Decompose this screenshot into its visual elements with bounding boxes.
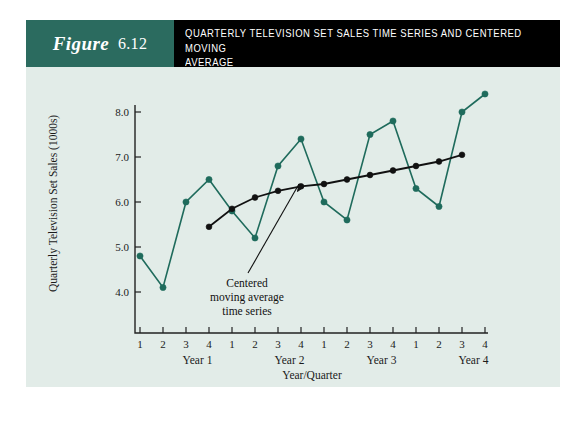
x-tick-label: 1 [229, 338, 235, 350]
data-series-group [137, 91, 488, 291]
annotation-text-line: Centered [226, 277, 268, 289]
moving-average-point [206, 224, 212, 230]
x-tick-label: 1 [137, 338, 143, 350]
x-tick-label: 3 [459, 338, 465, 350]
sales-data-point [183, 199, 189, 205]
moving-average-point [367, 172, 373, 178]
x-tick-label: 3 [367, 338, 373, 350]
chart-annotations: Centeredmoving averagetime series [210, 184, 303, 317]
y-tick-label: 7.0 [115, 151, 129, 163]
sales-data-point [321, 199, 327, 205]
figure-number-label: 6.12 [118, 35, 147, 53]
moving-average-point [413, 163, 419, 169]
moving-average-line [209, 155, 462, 227]
sales-data-point [436, 203, 442, 209]
x-tick-label: 4 [482, 338, 488, 350]
sales-series-line [140, 94, 485, 288]
moving-average-point [275, 188, 281, 194]
year-group-labels: Year 1Year 2Year 3Year 4 [183, 354, 489, 366]
figure-header: Figure 6.12 QUARTERLY TELEVISION SET SAL… [26, 20, 560, 67]
x-tick-label: 4 [206, 338, 212, 350]
sales-data-point [413, 185, 419, 191]
figure-title-box: QUARTERLY TELEVISION SET SALES TIME SERI… [174, 20, 560, 67]
x-axis-ticks: 1234123412341234 [137, 327, 488, 350]
y-tick-label: 5.0 [115, 241, 129, 253]
sales-data-point [275, 163, 281, 169]
y-axis-ticks: 4.05.06.07.08.0 [115, 106, 141, 298]
x-tick-label: 4 [298, 338, 304, 350]
sales-data-point [390, 118, 396, 124]
sales-data-point [367, 131, 373, 137]
figure-title: QUARTERLY TELEVISION SET SALES TIME SERI… [185, 27, 524, 71]
sales-data-point [298, 136, 304, 142]
x-tick-label: 3 [275, 338, 281, 350]
year-group-label: Year 2 [275, 354, 305, 366]
year-group-label: Year 1 [183, 354, 213, 366]
moving-average-point [390, 168, 396, 174]
axis-lines [135, 105, 488, 333]
x-tick-label: 4 [390, 338, 396, 350]
x-tick-label: 2 [344, 338, 350, 350]
sales-data-point [206, 176, 212, 182]
y-tick-label: 4.0 [115, 286, 129, 298]
sales-data-point [482, 91, 488, 97]
sales-data-point [160, 284, 166, 290]
moving-average-point [252, 195, 258, 201]
chart-panel: Quarterly Television Set Sales (1000s) 4… [26, 67, 560, 387]
figure-word-label: Figure [53, 33, 109, 55]
moving-average-point [344, 177, 350, 183]
sales-data-point [137, 253, 143, 259]
figure-root: Figure 6.12 QUARTERLY TELEVISION SET SAL… [0, 0, 586, 421]
x-axis-title: Year/Quarter [282, 369, 342, 381]
x-tick-label: 2 [436, 338, 442, 350]
x-tick-label: 2 [252, 338, 258, 350]
moving-average-point [436, 159, 442, 165]
moving-average-point [229, 206, 235, 212]
figure-number-tag: Figure 6.12 [26, 20, 174, 67]
x-tick-label: 1 [413, 338, 419, 350]
sales-data-point [252, 235, 258, 241]
x-tick-label: 3 [183, 338, 189, 350]
moving-average-point [459, 152, 465, 158]
y-axis-title: Quarterly Television Set Sales (1000s) [47, 115, 60, 292]
sales-data-point [459, 109, 465, 115]
x-tick-label: 2 [160, 338, 166, 350]
moving-average-point [321, 181, 327, 187]
x-tick-label: 1 [321, 338, 327, 350]
sales-data-point [344, 217, 350, 223]
annotation-text-line: moving average [210, 291, 284, 304]
annotation-text-line: time series [222, 305, 272, 317]
year-group-label: Year 4 [459, 354, 489, 366]
y-tick-label: 6.0 [115, 196, 129, 208]
y-tick-label: 8.0 [115, 106, 129, 118]
year-group-label: Year 3 [367, 354, 397, 366]
sales-time-series-chart: Quarterly Television Set Sales (1000s) 4… [26, 67, 560, 387]
